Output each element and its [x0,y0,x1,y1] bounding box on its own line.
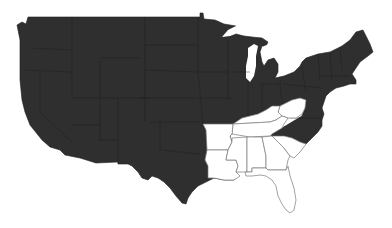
dark-states-region [17,13,373,204]
us-map-svg [0,0,392,228]
us-map: Contiguous United States choropleth (two… [0,0,392,228]
state-arkansas [203,124,233,150]
state-florida [245,166,296,213]
